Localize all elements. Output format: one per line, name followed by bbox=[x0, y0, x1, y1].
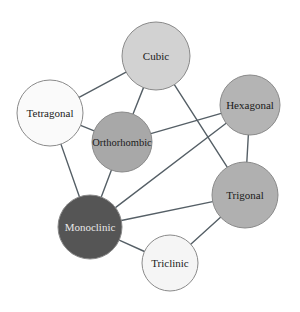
graph-edge bbox=[79, 72, 126, 97]
graph-edge bbox=[151, 113, 221, 133]
node-circle[interactable] bbox=[17, 80, 83, 146]
graph-edge bbox=[121, 202, 212, 221]
graph-svg: CubicTetragonalOrthorhombicHexagonalTrig… bbox=[0, 0, 300, 312]
node-circle[interactable] bbox=[92, 112, 152, 172]
graph-edge bbox=[61, 144, 79, 197]
graph-edge bbox=[81, 125, 95, 130]
graph-node-trigonal[interactable]: Trigonal bbox=[212, 162, 278, 228]
graph-node-hexagonal[interactable]: Hexagonal bbox=[220, 75, 280, 135]
node-circle[interactable] bbox=[122, 22, 190, 90]
graph-edge bbox=[191, 217, 221, 244]
node-circle[interactable] bbox=[212, 162, 278, 228]
graph-edge bbox=[133, 88, 143, 114]
graph-node-tetragonal[interactable]: Tetragonal bbox=[17, 80, 83, 146]
graph-node-cubic[interactable]: Cubic bbox=[122, 22, 190, 90]
graph-edge bbox=[174, 85, 227, 168]
crystal-system-graph: CubicTetragonalOrthorhombicHexagonalTrig… bbox=[0, 0, 300, 312]
node-circle[interactable] bbox=[220, 75, 280, 135]
graph-edge bbox=[247, 135, 249, 162]
node-layer: CubicTetragonalOrthorhombicHexagonalTrig… bbox=[17, 22, 280, 291]
graph-node-monoclinic[interactable]: Monoclinic bbox=[58, 195, 122, 259]
graph-node-triclinic[interactable]: Triclinic bbox=[142, 235, 198, 291]
graph-node-orthorhombic[interactable]: Orthorhombic bbox=[92, 112, 152, 172]
node-circle[interactable] bbox=[58, 195, 122, 259]
graph-edge bbox=[101, 170, 111, 197]
node-circle[interactable] bbox=[142, 235, 198, 291]
graph-edge bbox=[119, 240, 144, 251]
